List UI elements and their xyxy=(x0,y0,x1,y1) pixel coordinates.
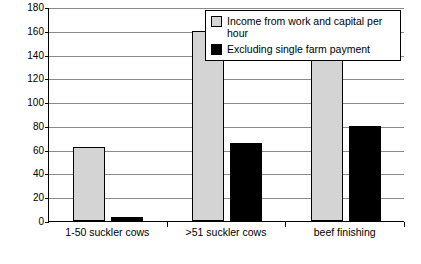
legend-item: Income from work and capital per hour xyxy=(211,15,395,39)
bar xyxy=(230,143,262,221)
y-axis-tick-label: 60 xyxy=(4,146,44,156)
bar xyxy=(111,217,143,221)
y-axis-tick-label: 20 xyxy=(4,193,44,203)
y-axis-tick-label: 40 xyxy=(4,169,44,179)
y-axis-tick-label: 120 xyxy=(4,74,44,84)
x-axis-category-label: 1-50 suckler cows xyxy=(48,226,167,238)
y-axis-tick-label: 0 xyxy=(4,217,44,227)
legend-label-excluding-sfp: Excluding single farm payment xyxy=(227,43,370,55)
legend-swatch-income xyxy=(211,16,222,27)
bar-chart: 020406080100120140160180 1-50 suckler co… xyxy=(0,0,421,264)
legend-swatch-excluding-sfp xyxy=(211,44,222,55)
y-axis-tick xyxy=(45,222,49,223)
x-axis-category-label: >51 suckler cows xyxy=(167,226,286,238)
y-axis-tick-label: 100 xyxy=(4,98,44,108)
bar xyxy=(311,47,343,221)
legend-label-income: Income from work and capital per hour xyxy=(227,15,395,39)
bar xyxy=(73,147,105,221)
y-axis-tick-label: 140 xyxy=(4,51,44,61)
y-axis: 020406080100120140160180 xyxy=(0,0,44,222)
y-axis-tick-label: 80 xyxy=(4,122,44,132)
x-axis-category-label: beef finishing xyxy=(285,226,404,238)
chart-legend: Income from work and capital per hour Ex… xyxy=(205,10,401,61)
y-axis-tick-label: 180 xyxy=(4,3,44,13)
y-axis-tick-label: 160 xyxy=(4,27,44,37)
bar-group xyxy=(49,8,168,221)
legend-item: Excluding single farm payment xyxy=(211,43,395,55)
bar xyxy=(349,126,381,221)
x-axis-tick xyxy=(404,222,405,227)
